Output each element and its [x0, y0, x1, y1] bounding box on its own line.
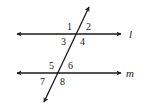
angle-label-1: 1 [67, 21, 72, 32]
line-label-m: m [126, 67, 134, 79]
parallel-lines-diagram: l m 1 2 3 4 5 6 7 8 [0, 0, 147, 109]
angle-label-4: 4 [80, 36, 85, 47]
angle-label-2: 2 [86, 21, 91, 32]
angle-label-5: 5 [49, 60, 54, 71]
angle-label-3: 3 [61, 36, 66, 47]
line-label-l: l [129, 28, 132, 40]
angle-label-7: 7 [40, 76, 45, 87]
angle-label-8: 8 [60, 76, 65, 87]
angle-label-6: 6 [68, 60, 73, 71]
